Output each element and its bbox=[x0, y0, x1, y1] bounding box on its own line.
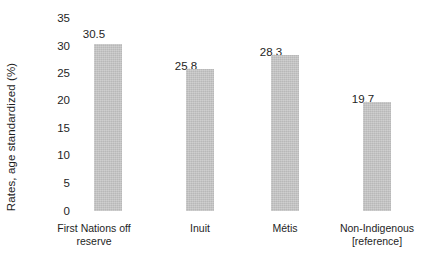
x-tick-label-metis: Métis bbox=[233, 222, 337, 235]
y-tick-5: 5 bbox=[44, 176, 70, 190]
y-tick-label: 0 bbox=[44, 204, 70, 218]
y-tick-0: 0 bbox=[44, 204, 70, 218]
cat-line-2: [reference] bbox=[325, 235, 429, 248]
y-tick-35: 35 bbox=[44, 11, 70, 25]
y-tick-10: 10 bbox=[44, 148, 70, 162]
y-tick-label: 25 bbox=[44, 66, 70, 80]
cat-line-1: Non-Indigenous bbox=[325, 222, 429, 235]
y-tick-label: 10 bbox=[44, 148, 70, 162]
cat-line-1: Métis bbox=[233, 222, 337, 235]
bar-non-indigenous[interactable] bbox=[363, 102, 391, 211]
y-tick-15: 15 bbox=[44, 121, 70, 135]
cat-line-1: First Nations off bbox=[42, 222, 146, 235]
bar-value-label-first-nations-off-reserve: 30.5 bbox=[59, 27, 129, 41]
cat-line-2: reserve bbox=[42, 235, 146, 248]
x-tick-label-non-indigenous: Non-Indigenous [reference] bbox=[325, 222, 429, 248]
bar-metis[interactable] bbox=[271, 55, 299, 211]
bar-first-nations-off-reserve[interactable] bbox=[94, 44, 122, 211]
y-tick-30: 30 bbox=[44, 39, 70, 53]
plot-area: 0 5 10 15 20 25 30 35 30.5 First Nations… bbox=[0, 0, 431, 274]
bar-inuit[interactable] bbox=[186, 69, 214, 211]
y-tick-25: 25 bbox=[44, 66, 70, 80]
y-tick-label: 35 bbox=[44, 11, 70, 25]
y-tick-label: 30 bbox=[44, 39, 70, 53]
bar-chart-figure: Rates, age standardized (%) 0 5 10 15 20… bbox=[0, 0, 431, 274]
x-tick-label-first-nations-off-reserve: First Nations off reserve bbox=[42, 222, 146, 248]
y-tick-label: 20 bbox=[44, 93, 70, 107]
y-tick-label: 15 bbox=[44, 121, 70, 135]
y-tick-label: 5 bbox=[44, 176, 70, 190]
y-tick-20: 20 bbox=[44, 93, 70, 107]
